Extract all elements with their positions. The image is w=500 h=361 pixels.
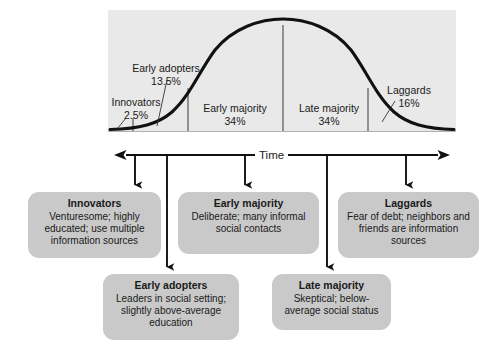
chart-label-late-majority-pct: 34%	[288, 115, 370, 128]
chart-label-early-adopters: Early adopters 13.5%	[120, 62, 212, 87]
description-box-innovators: Innovators Venturesome; highly educated;…	[28, 192, 161, 258]
chart-label-early-majority-text: Early majority	[203, 102, 267, 114]
description-box-innovators-title: Innovators	[34, 197, 155, 210]
chart-label-innovators-pct: 2.5%	[104, 109, 168, 122]
chart-label-laggards-pct: 16%	[378, 97, 440, 110]
diagram-root: Innovators 2.5% Early adopters 13.5% Ear…	[0, 0, 500, 361]
description-box-laggards-body: Fear of debt; neighbors and friends are …	[344, 211, 473, 248]
time-axis-label: Time	[255, 149, 288, 161]
chart-label-early-majority: Early majority 34%	[192, 102, 278, 127]
description-box-early-adopters-body: Leaders in social setting; slightly abov…	[109, 293, 233, 330]
description-box-early-majority: Early majority Deliberate; many informal…	[178, 192, 319, 254]
chart-label-late-majority: Late majority 34%	[288, 102, 370, 127]
chart-label-innovators: Innovators 2.5%	[104, 96, 168, 121]
chart-label-early-adopters-pct: 13.5%	[120, 75, 212, 88]
description-box-laggards-title: Laggards	[344, 197, 473, 210]
description-box-late-majority: Late majority Skeptical; below-average s…	[272, 274, 391, 330]
description-box-laggards: Laggards Fear of debt; neighbors and fri…	[338, 192, 479, 258]
description-box-innovators-body: Venturesome; highly educated; use multip…	[34, 211, 155, 248]
chart-label-innovators-text: Innovators	[111, 96, 160, 108]
chart-label-late-majority-text: Late majority	[299, 102, 359, 114]
description-box-early-majority-title: Early majority	[184, 197, 313, 210]
chart-label-early-adopters-text: Early adopters	[132, 62, 200, 74]
chart-label-early-majority-pct: 34%	[192, 115, 278, 128]
description-box-early-majority-body: Deliberate; many informal social contact…	[184, 211, 313, 235]
description-box-late-majority-title: Late majority	[278, 279, 385, 292]
description-box-early-adopters: Early adopters Leaders in social setting…	[103, 274, 239, 340]
description-box-early-adopters-title: Early adopters	[109, 279, 233, 292]
chart-label-laggards-text: Laggards	[387, 84, 431, 96]
chart-label-laggards: Laggards 16%	[378, 84, 440, 109]
description-box-late-majority-body: Skeptical; below-average social status	[278, 293, 385, 317]
